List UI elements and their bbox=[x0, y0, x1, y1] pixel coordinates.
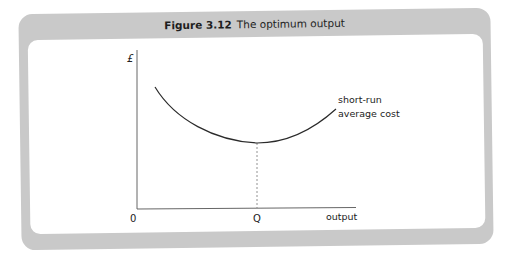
curve-label-line1: short-run bbox=[338, 94, 382, 105]
x-axis bbox=[137, 208, 356, 210]
x-axis-label: output bbox=[326, 211, 358, 222]
y-axis-label: £ bbox=[127, 53, 134, 64]
q-label: Q bbox=[253, 213, 261, 224]
chart: £ 0 Q output short-run average cost bbox=[0, 0, 512, 261]
curve-label-line2: average cost bbox=[338, 108, 400, 119]
short-run-average-cost-curve bbox=[155, 87, 336, 143]
origin-label: 0 bbox=[130, 213, 136, 224]
